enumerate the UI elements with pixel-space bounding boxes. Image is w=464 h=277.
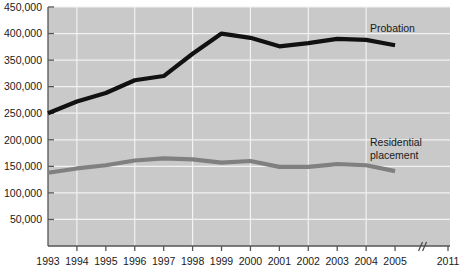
x-tick-label: 2001 xyxy=(268,255,292,267)
chart-container: 50,000100,000150,000200,000250,000300,00… xyxy=(0,0,464,277)
x-tick-label: 1998 xyxy=(181,255,205,267)
y-tick-label: 300,000 xyxy=(4,80,42,92)
series-label: Residential xyxy=(370,136,422,148)
y-tick-label: 400,000 xyxy=(4,27,42,39)
x-tick-label: 2004 xyxy=(354,255,378,267)
x-tick-label: 1994 xyxy=(65,255,89,267)
x-tick-label: 1993 xyxy=(36,255,60,267)
line-chart: 50,000100,000150,000200,000250,000300,00… xyxy=(0,0,464,277)
x-tick-label: 1997 xyxy=(152,255,176,267)
x-tick-label: 2000 xyxy=(239,255,263,267)
y-tick-label: 200,000 xyxy=(4,134,42,146)
x-tick-label: 2003 xyxy=(326,255,350,267)
y-tick-label: 150,000 xyxy=(4,160,42,172)
series-label: Probation xyxy=(370,22,415,34)
x-tick-label: 2011 xyxy=(437,255,460,267)
y-tick-label: 50,000 xyxy=(10,213,42,225)
series-label: placement xyxy=(370,149,419,161)
y-tick-label: 250,000 xyxy=(4,107,42,119)
x-tick-label: 2005 xyxy=(383,255,407,267)
y-tick-label: 350,000 xyxy=(4,54,42,66)
x-tick-label: 1995 xyxy=(94,255,118,267)
x-tick-label: 1999 xyxy=(210,255,234,267)
x-axis-ticks xyxy=(77,246,448,251)
x-tick-label: 1996 xyxy=(123,255,147,267)
x-axis-tick-labels: 1993199419951996199719981999200020012002… xyxy=(36,255,459,267)
x-tick-label: 2002 xyxy=(297,255,321,267)
y-tick-label: 450,000 xyxy=(4,1,42,13)
y-axis-tick-labels: 50,000100,000150,000200,000250,000300,00… xyxy=(4,1,42,225)
y-tick-label: 100,000 xyxy=(4,187,42,199)
